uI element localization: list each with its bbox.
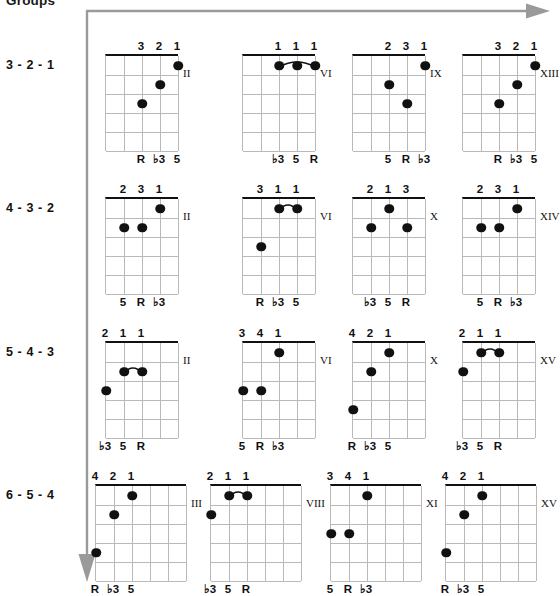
fret-line xyxy=(106,400,178,401)
finger-dot xyxy=(459,510,469,520)
fret-line xyxy=(211,562,301,563)
fret-position-label: VI xyxy=(320,354,332,366)
finger-dot xyxy=(476,348,486,358)
string-line xyxy=(124,199,125,294)
finger-dot xyxy=(344,529,354,539)
row-label-4-3-2: 4 - 3 - 2 xyxy=(6,201,78,215)
interval-label: R xyxy=(402,153,410,166)
interval-label: 5 xyxy=(531,153,537,166)
string-line xyxy=(178,199,179,294)
fret-line xyxy=(446,505,536,506)
interval-label: ♭3 xyxy=(272,440,284,453)
finger-number: 1 xyxy=(495,327,501,340)
finger-dot xyxy=(137,367,147,377)
finger-dot xyxy=(206,510,216,520)
interval-label: 5 xyxy=(174,153,180,166)
string-line xyxy=(389,199,390,294)
finger-number: 4 xyxy=(349,327,355,340)
fret-line xyxy=(106,381,178,382)
interval-label: 5 xyxy=(225,583,231,596)
finger-dot xyxy=(127,491,137,501)
finger-number: 1 xyxy=(225,470,231,483)
fret-line xyxy=(243,113,315,114)
finger-number: 4 xyxy=(92,470,98,483)
finger-number: 4 xyxy=(345,470,351,483)
interval-label: R xyxy=(494,153,502,166)
fret-line xyxy=(446,543,536,544)
string-line xyxy=(517,56,518,151)
fret-line xyxy=(331,505,421,506)
fret-line xyxy=(463,218,535,219)
string-line xyxy=(425,56,426,151)
interval-label: ♭3 xyxy=(364,296,376,309)
interval-label: ♭3 xyxy=(204,583,216,596)
fretboard-grid xyxy=(105,341,178,438)
finger-dot xyxy=(109,510,119,520)
finger-number: 3 xyxy=(403,40,409,53)
fret-line xyxy=(243,237,315,238)
fret-line xyxy=(463,132,535,133)
finger-number: 2 xyxy=(102,327,108,340)
string-line xyxy=(464,486,465,581)
string-line xyxy=(114,486,115,581)
fret-line xyxy=(106,132,178,133)
finger-dot xyxy=(242,491,252,501)
finger-number: 1 xyxy=(275,183,281,196)
fret-line xyxy=(353,218,425,219)
fret-line xyxy=(353,113,425,114)
fret-line xyxy=(106,419,178,420)
finger-dot xyxy=(274,348,284,358)
interval-label: R xyxy=(137,440,145,453)
finger-dot xyxy=(119,367,129,377)
fret-position-label: VIII xyxy=(306,497,325,509)
finger-dot xyxy=(512,204,522,214)
row-label-5-4-3: 5 - 4 - 3 xyxy=(6,345,78,359)
interval-label: 5 xyxy=(293,296,299,309)
finger-dot xyxy=(494,348,504,358)
finger-number: 1 xyxy=(385,183,391,196)
string-line xyxy=(160,199,161,294)
fret-position-label: X xyxy=(430,210,438,222)
finger-number: 1 xyxy=(243,470,249,483)
fretboard-grid xyxy=(352,341,425,438)
fret-line xyxy=(446,581,536,582)
fret-line xyxy=(243,381,315,382)
fretboard-grid xyxy=(462,54,535,151)
interval-label: ♭3 xyxy=(153,153,165,166)
string-line xyxy=(407,343,408,438)
fret-line xyxy=(96,581,186,582)
string-line xyxy=(481,56,482,151)
finger-dot xyxy=(119,223,129,233)
fret-line xyxy=(243,419,315,420)
fret-line xyxy=(353,94,425,95)
fretboard-grid xyxy=(210,484,301,581)
fretboard-grid xyxy=(242,197,315,294)
finger-dot xyxy=(292,204,302,214)
finger-number: 2 xyxy=(207,470,213,483)
finger-number: 2 xyxy=(477,183,483,196)
string-line xyxy=(160,343,161,438)
interval-label: ♭3 xyxy=(510,153,522,166)
fret-line xyxy=(96,524,186,525)
string-line xyxy=(389,56,390,151)
fret-line xyxy=(243,218,315,219)
finger-number: 4 xyxy=(442,470,448,483)
string-line xyxy=(425,199,426,294)
fret-position-label: XIII xyxy=(540,67,559,79)
fret-position-label: VI xyxy=(320,67,332,79)
finger-dot xyxy=(274,204,284,214)
fretboard-grid xyxy=(462,197,535,294)
string-line xyxy=(168,486,169,581)
fret-line xyxy=(463,275,535,276)
finger-number: 1 xyxy=(138,327,144,340)
fretboard-grid xyxy=(352,197,425,294)
finger-number: 2 xyxy=(110,470,116,483)
fret-line xyxy=(463,151,535,152)
finger-dot xyxy=(512,80,522,90)
string-line xyxy=(315,343,316,438)
fret-line xyxy=(243,400,315,401)
fret-line xyxy=(353,419,425,420)
finger-dot xyxy=(155,204,165,214)
string-line xyxy=(124,56,125,151)
finger-dot xyxy=(362,491,372,501)
